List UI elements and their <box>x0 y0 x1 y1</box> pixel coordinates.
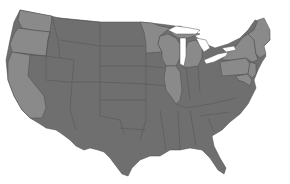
us-map <box>0 0 290 184</box>
state-oregon[interactable] <box>10 28 50 56</box>
